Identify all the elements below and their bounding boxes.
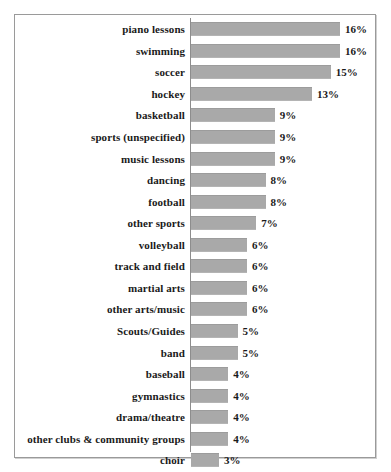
bar-value-label: 9%: [280, 131, 297, 143]
bar-value-label: 4%: [233, 368, 250, 380]
bar-value-label: 6%: [252, 260, 269, 272]
bar-category-label: piano lessons: [15, 23, 185, 35]
bar: [191, 195, 266, 209]
bar-row: baseball4%: [15, 363, 375, 385]
bar-category-label: swimming: [15, 45, 185, 57]
bar-category-label: sports (unspecified): [15, 131, 185, 143]
bar-category-label: track and field: [15, 260, 185, 272]
bar-row: sports (unspecified)9%: [15, 126, 375, 148]
bar-row: swimming16%: [15, 40, 375, 62]
bar-row: choir3%: [15, 450, 375, 472]
bar-row: drama/theatre4%: [15, 406, 375, 428]
bar-value-label: 13%: [317, 88, 339, 100]
bar-row: dancing8%: [15, 169, 375, 191]
bar-category-label: soccer: [15, 66, 185, 78]
bar-and-value: 6%: [191, 277, 268, 299]
bar-value-label: 9%: [280, 153, 297, 165]
bar-and-value: 4%: [191, 428, 250, 450]
bar-value-label: 6%: [252, 303, 269, 315]
bar: [191, 410, 228, 424]
bar-value-label: 7%: [261, 217, 278, 229]
bar-and-value: 15%: [191, 62, 358, 84]
bar-and-value: 9%: [191, 148, 296, 170]
bar: [191, 346, 238, 360]
bar-row: martial arts6%: [15, 277, 375, 299]
bar-value-label: 6%: [252, 239, 269, 251]
bar-row: piano lessons16%: [15, 19, 375, 41]
bar-value-label: 4%: [233, 433, 250, 445]
bar-row: Scouts/Guides5%: [15, 320, 375, 342]
bar-row: volleyball6%: [15, 234, 375, 256]
bar-and-value: 9%: [191, 105, 296, 127]
bar-row: other sports7%: [15, 212, 375, 234]
bar-row: soccer15%: [15, 62, 375, 84]
bar-value-label: 16%: [345, 23, 367, 35]
bar-and-value: 4%: [191, 406, 250, 428]
bar-row: music lessons9%: [15, 148, 375, 170]
bar: [191, 44, 340, 58]
bar-row: basketball9%: [15, 105, 375, 127]
bar-value-label: 8%: [271, 174, 288, 186]
bar-row: band5%: [15, 342, 375, 364]
bar-row: track and field6%: [15, 256, 375, 278]
bar-row: other arts/music6%: [15, 299, 375, 321]
bar: [191, 238, 247, 252]
bar-value-label: 6%: [252, 282, 269, 294]
bar-category-label: dancing: [15, 174, 185, 186]
bar: [191, 389, 228, 403]
bar-value-label: 4%: [233, 390, 250, 402]
bar-and-value: 8%: [191, 169, 287, 191]
bar-and-value: 5%: [191, 320, 259, 342]
bar-and-value: 13%: [191, 83, 339, 105]
bar-value-label: 15%: [336, 66, 358, 78]
bar: [191, 281, 247, 295]
bar-and-value: 7%: [191, 212, 278, 234]
bar: [191, 87, 312, 101]
bar: [191, 216, 256, 230]
bar-and-value: 6%: [191, 256, 268, 278]
bar-category-label: football: [15, 196, 185, 208]
bar-value-label: 4%: [233, 411, 250, 423]
bar-category-label: choir: [15, 454, 185, 466]
bar-category-label: Scouts/Guides: [15, 325, 185, 337]
bar-chart-plot-area: piano lessons16%swimming16%soccer15%hock…: [15, 15, 375, 457]
bar-category-label: gymnastics: [15, 390, 185, 402]
chart-frame: piano lessons16%swimming16%soccer15%hock…: [14, 14, 376, 458]
bar-category-label: drama/theatre: [15, 411, 185, 423]
bar-row: gymnastics4%: [15, 385, 375, 407]
bar-value-label: 8%: [271, 196, 288, 208]
bar: [191, 324, 238, 338]
bar-value-label: 5%: [243, 325, 260, 337]
bar-and-value: 6%: [191, 299, 268, 321]
bar-value-label: 9%: [280, 109, 297, 121]
bar-category-label: volleyball: [15, 239, 185, 251]
bar-row: football8%: [15, 191, 375, 213]
bar: [191, 259, 247, 273]
bar-and-value: 16%: [191, 40, 367, 62]
bar: [191, 173, 266, 187]
bar-and-value: 6%: [191, 234, 268, 256]
bar-category-label: martial arts: [15, 282, 185, 294]
bar-category-label: hockey: [15, 88, 185, 100]
bar-and-value: 16%: [191, 19, 367, 41]
bar-row: hockey13%: [15, 83, 375, 105]
bar: [191, 65, 331, 79]
bar-and-value: 4%: [191, 363, 250, 385]
bar: [191, 152, 275, 166]
bar: [191, 302, 247, 316]
bar-category-label: other clubs & community groups: [15, 433, 185, 445]
bar: [191, 367, 228, 381]
bar-row: other clubs & community groups4%: [15, 428, 375, 450]
bar-category-label: baseball: [15, 368, 185, 380]
bar-value-label: 5%: [243, 347, 260, 359]
bar: [191, 130, 275, 144]
bar: [191, 108, 275, 122]
bar: [191, 432, 228, 446]
bar-value-label: 16%: [345, 45, 367, 57]
bar-and-value: 5%: [191, 342, 259, 364]
bar: [191, 22, 340, 36]
bar-and-value: 9%: [191, 126, 296, 148]
bar-category-label: band: [15, 347, 185, 359]
bar-and-value: 4%: [191, 385, 250, 407]
bar-value-label: 3%: [224, 454, 241, 466]
